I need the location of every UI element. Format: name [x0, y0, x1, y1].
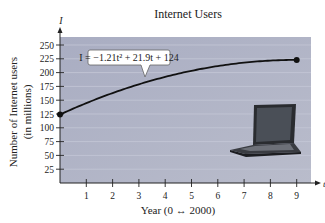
y-axis-label-sub: (in millions)	[21, 84, 34, 139]
y-tick-label: 75	[45, 137, 55, 147]
y-tick-label: 25	[45, 165, 55, 175]
y-axis-label: Number of Internet users	[7, 57, 19, 167]
y-tick-label: 225	[40, 54, 55, 64]
x-tick-label: 2	[110, 191, 115, 201]
chart: Internet Users I t 255075100125150175200…	[0, 0, 325, 223]
x-tick-label: 9	[294, 191, 299, 201]
x-tick-label: 3	[137, 191, 142, 201]
y-tick-label: 50	[45, 151, 55, 161]
y-axis-arrow	[58, 27, 63, 33]
y-tick-label: 100	[40, 123, 55, 133]
x-axis-arrow	[315, 181, 321, 186]
endpoint	[294, 57, 300, 63]
x-tick-label: 8	[268, 191, 273, 201]
y-tick-label: 125	[40, 110, 55, 120]
y-tick-label: 200	[40, 68, 55, 78]
chart-title: Internet Users	[154, 7, 222, 21]
x-tick-label: 1	[84, 191, 89, 201]
x-tick-label: 4	[163, 191, 168, 201]
y-tick-label: 250	[40, 41, 55, 51]
y-axis-var: I	[58, 15, 63, 26]
y-tick-label: 175	[40, 82, 55, 92]
x-tick-label: 5	[189, 191, 194, 201]
equation-label: I = −1.21t² + 21.9t + 124	[79, 52, 178, 63]
x-tick-label: 6	[215, 191, 220, 201]
y-tick-label: 150	[40, 96, 55, 106]
endpoint	[57, 112, 63, 118]
x-axis-label: Year (0 ↔ 2000)	[141, 204, 216, 217]
x-tick-label: 7	[242, 191, 247, 201]
